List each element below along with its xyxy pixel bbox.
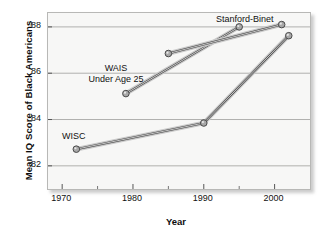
series-label-wais-line2: Under Age 25 (72, 74, 160, 85)
series-label-wais-line1: WAIS (72, 63, 160, 74)
x-tick-label: 1990 (183, 193, 223, 203)
y-tick-label: 86 (11, 66, 41, 76)
x-tick-label: 1980 (112, 193, 152, 203)
series-lines (76, 25, 288, 150)
y-tick-label: 88 (11, 20, 41, 30)
series-label-stanford-binet: Stanford-Binet (216, 14, 274, 24)
series-label-wais: WAIS Under Age 25 (72, 63, 160, 85)
plot-area (47, 12, 311, 190)
x-tick-label: 1970 (41, 193, 81, 203)
plot-svg (48, 13, 310, 189)
y-tick-label: 84 (11, 113, 41, 123)
iq-score-line-chart: Mean IQ Score of Black Americans 8284868… (0, 0, 336, 235)
series-label-wisc: WISC (62, 131, 86, 141)
y-tick-label: 82 (11, 159, 41, 169)
series-markers (73, 21, 292, 152)
x-tick-label: 2000 (254, 193, 294, 203)
x-axis-title: Year (40, 216, 312, 227)
axis-ticks (48, 27, 275, 189)
